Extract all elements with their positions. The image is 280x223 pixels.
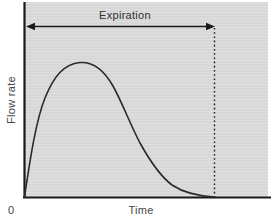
flow-rate-time-chart: Expiration Flow rate Time 0 (0, 0, 280, 223)
x-axis-label: Time (128, 204, 153, 216)
plot-panel (24, 2, 268, 197)
origin-label: 0 (8, 204, 14, 216)
y-axis-label: Flow rate (5, 76, 17, 124)
expiration-label: Expiration (99, 9, 151, 21)
chart-svg: Expiration Flow rate Time 0 (0, 0, 280, 223)
